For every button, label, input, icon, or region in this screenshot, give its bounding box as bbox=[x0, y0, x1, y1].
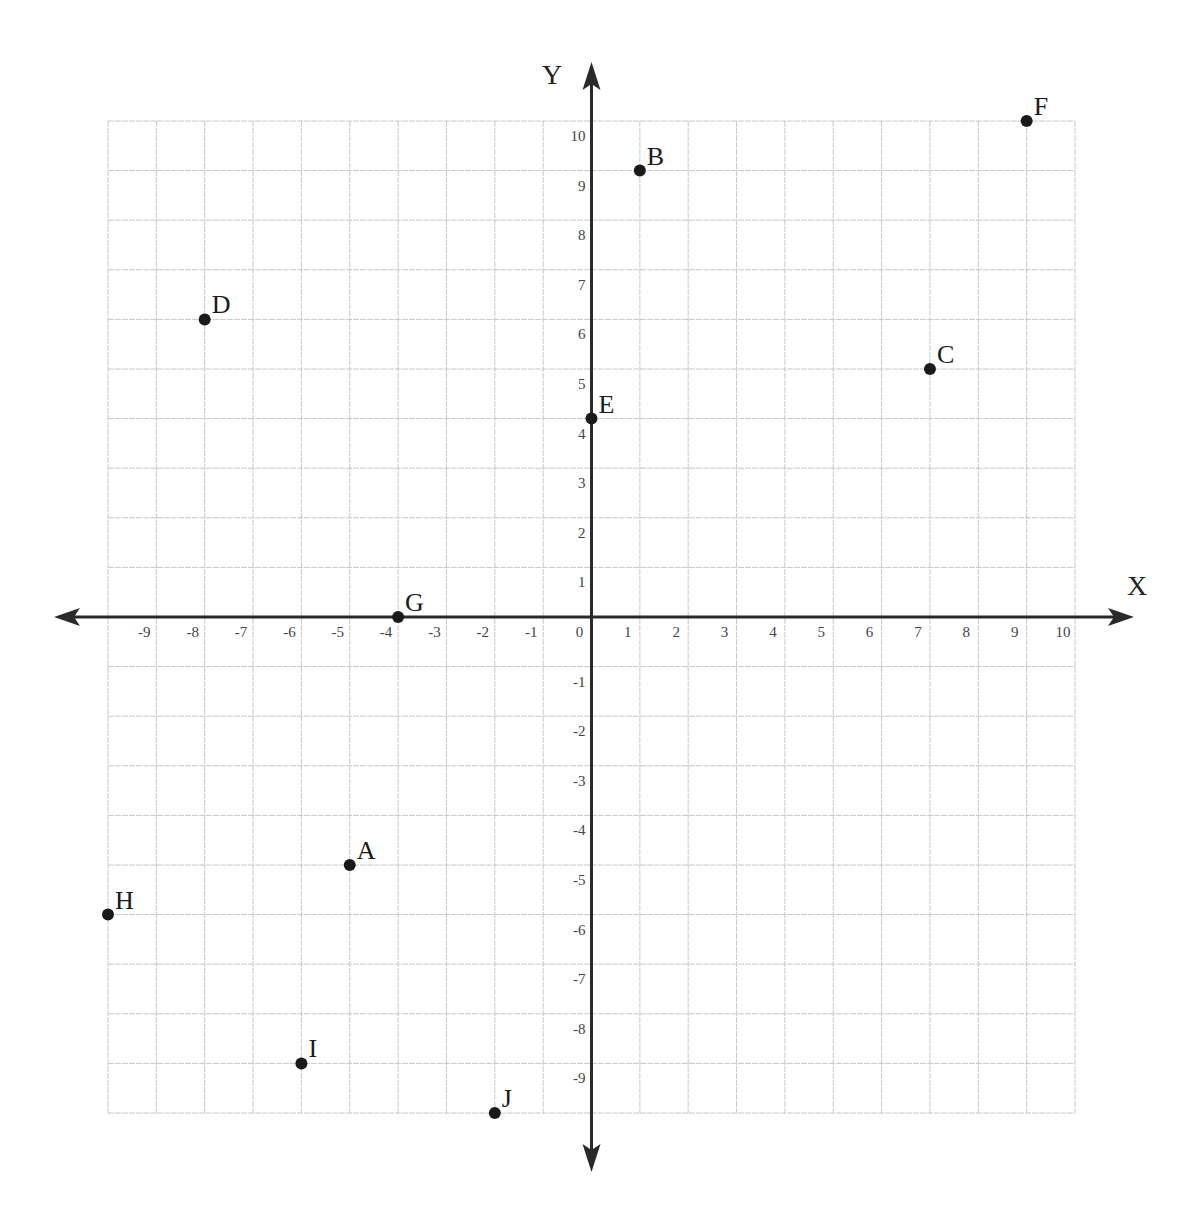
point-marker-icon bbox=[102, 909, 114, 921]
x-tick-label: -3 bbox=[428, 624, 441, 640]
y-tick-label: -8 bbox=[573, 1021, 586, 1037]
y-tick-label: 2 bbox=[578, 525, 586, 541]
y-tick-label: 5 bbox=[578, 376, 586, 392]
y-tick-label: -4 bbox=[573, 822, 586, 838]
data-point-c: C bbox=[924, 340, 954, 375]
point-marker-icon bbox=[295, 1057, 307, 1069]
y-tick-label: -9 bbox=[573, 1070, 586, 1086]
y-tick-label: -2 bbox=[573, 723, 586, 739]
coordinate-plane: -9-8-7-6-5-4-3-2-10123456789101098765432… bbox=[0, 0, 1202, 1226]
point-label: G bbox=[405, 588, 424, 617]
point-label: I bbox=[308, 1034, 317, 1063]
point-marker-icon bbox=[924, 363, 936, 375]
data-point-j: J bbox=[489, 1084, 512, 1119]
x-tick-label: 5 bbox=[818, 624, 826, 640]
data-point-f: F bbox=[1021, 92, 1048, 127]
y-tick-label: 10 bbox=[571, 128, 586, 144]
x-tick-label: -1 bbox=[525, 624, 538, 640]
point-label: F bbox=[1034, 92, 1048, 121]
data-point-i: I bbox=[295, 1034, 317, 1069]
x-tick-label: 7 bbox=[914, 624, 922, 640]
point-marker-icon bbox=[344, 859, 356, 871]
data-point-a: A bbox=[344, 836, 376, 871]
x-tick-label: 2 bbox=[672, 624, 680, 640]
tick-labels: -9-8-7-6-5-4-3-2-10123456789101098765432… bbox=[138, 128, 1070, 1086]
data-point-b: B bbox=[634, 142, 664, 177]
point-marker-icon bbox=[489, 1107, 501, 1119]
data-point-h: H bbox=[102, 886, 134, 921]
y-axis-title: Y bbox=[542, 59, 562, 90]
x-tick-label: 9 bbox=[1011, 624, 1019, 640]
point-marker-icon bbox=[586, 413, 598, 425]
y-tick-label: -7 bbox=[573, 971, 586, 987]
y-tick-label: 1 bbox=[578, 574, 586, 590]
x-tick-label: 4 bbox=[769, 624, 777, 640]
y-tick-label: 7 bbox=[578, 277, 586, 293]
point-marker-icon bbox=[1021, 115, 1033, 127]
point-label: D bbox=[212, 290, 231, 319]
point-label: B bbox=[647, 142, 664, 171]
y-tick-label: 3 bbox=[578, 475, 586, 491]
y-tick-label: 6 bbox=[578, 326, 586, 342]
x-tick-label: 10 bbox=[1056, 624, 1071, 640]
x-tick-label: -5 bbox=[332, 624, 345, 640]
x-tick-label: 0 bbox=[576, 624, 584, 640]
x-tick-label: -6 bbox=[283, 624, 296, 640]
x-tick-label: -8 bbox=[186, 624, 199, 640]
x-axis-title: X bbox=[1127, 570, 1147, 601]
point-label: J bbox=[502, 1084, 512, 1113]
y-tick-label: -1 bbox=[573, 674, 586, 690]
y-tick-label: 9 bbox=[578, 178, 586, 194]
data-points: ABCDEFGHIJ bbox=[102, 92, 1048, 1119]
data-point-d: D bbox=[199, 290, 231, 325]
axes bbox=[54, 62, 1134, 1172]
point-marker-icon bbox=[634, 165, 646, 177]
point-marker-icon bbox=[392, 611, 404, 623]
x-tick-label: 1 bbox=[624, 624, 632, 640]
y-tick-label: 4 bbox=[578, 426, 586, 442]
data-point-e: E bbox=[586, 390, 615, 425]
x-tick-label: -4 bbox=[380, 624, 393, 640]
point-label: H bbox=[115, 886, 134, 915]
y-tick-label: -6 bbox=[573, 922, 586, 938]
x-tick-label: 6 bbox=[866, 624, 874, 640]
y-tick-label: -3 bbox=[573, 773, 586, 789]
point-label: C bbox=[937, 340, 954, 369]
y-tick-label: 8 bbox=[578, 227, 586, 243]
point-label: A bbox=[357, 836, 376, 865]
point-marker-icon bbox=[199, 313, 211, 325]
x-tick-label: 3 bbox=[721, 624, 729, 640]
x-tick-label: -9 bbox=[138, 624, 151, 640]
y-tick-label: -5 bbox=[573, 872, 586, 888]
x-tick-label: -7 bbox=[235, 624, 248, 640]
point-label: E bbox=[599, 390, 615, 419]
x-tick-label: 8 bbox=[963, 624, 971, 640]
x-tick-label: -2 bbox=[477, 624, 490, 640]
